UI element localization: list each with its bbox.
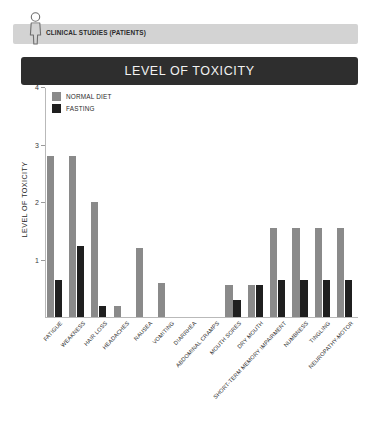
bar	[248, 285, 255, 317]
y-tick-label: 3	[35, 141, 39, 148]
bar	[91, 202, 98, 317]
bar	[278, 280, 285, 317]
bar	[114, 306, 121, 318]
bar	[233, 300, 240, 317]
bar	[225, 285, 232, 317]
x-category-label: ABDOMINAL CRAMPS	[174, 320, 220, 368]
x-category-label: NEUROPATHY-MOTOR	[307, 320, 354, 370]
x-axis-line	[45, 317, 358, 318]
bar	[136, 248, 143, 317]
bar	[55, 280, 62, 317]
bar	[337, 228, 344, 317]
bars-layer	[45, 87, 358, 317]
y-axis-title: LEVEL OF TOXICITY	[20, 140, 29, 260]
bar	[323, 280, 330, 317]
bar	[292, 228, 299, 317]
y-tick-label: 2	[35, 199, 39, 206]
y-tick-label: 1	[35, 256, 39, 263]
x-category-label: NAUSEA	[132, 320, 153, 342]
bar	[47, 156, 54, 317]
y-tick-label: 4	[35, 84, 39, 91]
bar	[315, 228, 322, 317]
bar-chart: LEVEL OF TOXICITY 1234 NORMAL DIETFASTIN…	[0, 0, 371, 423]
bar	[69, 156, 76, 317]
bar	[77, 246, 84, 317]
x-category-label: TINGLING	[309, 320, 332, 344]
bar	[158, 283, 165, 318]
x-category-label: FATIGUE	[42, 320, 63, 342]
bar	[300, 280, 307, 317]
bar	[99, 306, 106, 318]
bar	[270, 228, 277, 317]
bar	[345, 280, 352, 317]
bar	[256, 285, 263, 317]
